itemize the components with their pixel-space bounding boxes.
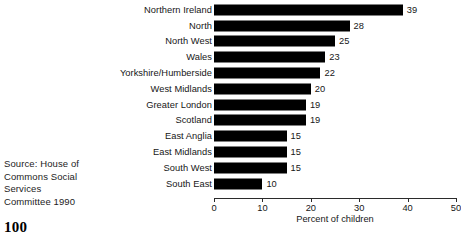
- bar-value-label: 20: [315, 84, 325, 94]
- category-label: Yorkshire/Humberside: [120, 68, 212, 78]
- bar: [214, 99, 306, 110]
- bar: [214, 4, 403, 15]
- bar-value-label: 25: [339, 36, 349, 46]
- bar: [214, 68, 320, 79]
- x-tick-label: 40: [402, 203, 412, 213]
- category-label: South East: [166, 179, 212, 189]
- bar-value-label: 28: [354, 21, 364, 31]
- category-label: South West: [164, 163, 212, 173]
- bar: [214, 36, 335, 47]
- bar-row: East Anglia15: [0, 128, 458, 144]
- source-note-line: Committee 1990: [4, 196, 134, 209]
- x-tick: [262, 198, 263, 202]
- category-label: North West: [165, 36, 212, 46]
- bar-value-label: 22: [324, 68, 334, 78]
- bar: [214, 52, 325, 63]
- page-number: 100: [4, 219, 27, 236]
- bar: [214, 131, 287, 142]
- x-tick: [311, 198, 312, 202]
- category-label: West Midlands: [151, 84, 212, 94]
- bar-row: North28: [0, 18, 458, 34]
- bar: [214, 147, 287, 158]
- category-label: Wales: [186, 52, 212, 62]
- bar-row: Wales23: [0, 49, 458, 65]
- source-note-line: Commons Social: [4, 171, 134, 184]
- source-note: Source: House ofCommons SocialServicesCo…: [4, 158, 134, 208]
- bar-value-label: 19: [310, 115, 320, 125]
- bar-value-label: 10: [266, 179, 276, 189]
- bar-value-label: 15: [291, 163, 301, 173]
- bar-value-label: 15: [291, 147, 301, 157]
- x-axis-line: [214, 198, 456, 199]
- category-label: East Anglia: [165, 131, 212, 141]
- bar-value-label: 23: [329, 52, 339, 62]
- category-label: North: [189, 21, 212, 31]
- source-note-line: Services: [4, 183, 134, 196]
- category-label: Northern Ireland: [144, 5, 212, 15]
- category-label: Greater London: [146, 100, 212, 110]
- x-tick-label: 50: [451, 203, 461, 213]
- bar: [214, 83, 311, 94]
- x-tick-label: 20: [306, 203, 316, 213]
- bar-row: Greater London19: [0, 97, 458, 113]
- category-label: East Midlands: [153, 147, 212, 157]
- bar-value-label: 39: [407, 5, 417, 15]
- x-tick-label: 10: [257, 203, 267, 213]
- bar-value-label: 15: [291, 131, 301, 141]
- bar-row: West Midlands20: [0, 81, 458, 97]
- x-tick: [214, 198, 215, 202]
- source-note-line: Source: House of: [4, 158, 134, 171]
- bar: [214, 20, 350, 31]
- category-label: Scotland: [175, 115, 212, 125]
- bar-row: North West25: [0, 34, 458, 50]
- x-tick-label: 0: [211, 203, 216, 213]
- bar-row: Northern Ireland39: [0, 2, 458, 18]
- bar-row: Yorkshire/Humberside22: [0, 65, 458, 81]
- bar: [214, 178, 262, 189]
- bar: [214, 162, 287, 173]
- bar-row: Scotland19: [0, 113, 458, 129]
- bar: [214, 115, 306, 126]
- x-axis-title: Percent of children: [214, 214, 456, 224]
- x-tick: [408, 198, 409, 202]
- x-tick: [359, 198, 360, 202]
- x-tick: [456, 198, 457, 202]
- x-tick-label: 30: [354, 203, 364, 213]
- bar-value-label: 19: [310, 100, 320, 110]
